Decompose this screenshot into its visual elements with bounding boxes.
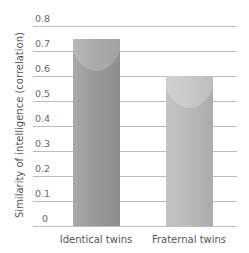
y-tick: 0.7 [35, 39, 65, 49]
bar-fraternal-twins [166, 76, 213, 226]
baseline [33, 226, 237, 227]
x-label-identical: Identical twins [46, 234, 146, 245]
bar-chart: Similarity of intelligence (correlation)… [0, 0, 249, 253]
x-label-fraternal: Fraternal twins [139, 234, 239, 245]
y-axis-label: Similarity of intelligence (correlation) [14, 43, 25, 218]
y-tick: 0.6 [35, 64, 65, 74]
gridline-0.8 [33, 26, 237, 27]
y-tick: 0.2 [35, 164, 65, 174]
y-tick: 0.4 [35, 114, 65, 124]
gridline-0.7 [33, 51, 237, 52]
y-tick: 0 [42, 214, 72, 224]
y-tick: 0.5 [35, 89, 65, 99]
bar-identical-twins [73, 39, 120, 227]
y-tick: 0.1 [35, 189, 65, 199]
y-tick: 0.3 [35, 139, 65, 149]
y-tick: 0.8 [35, 14, 65, 24]
